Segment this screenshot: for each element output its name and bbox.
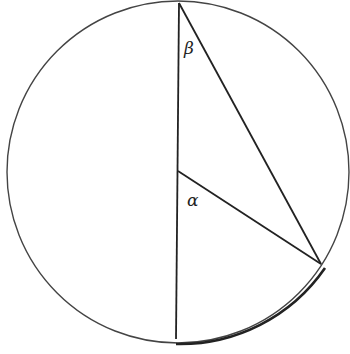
beta-label: β	[183, 38, 194, 58]
geometry-diagram: β α	[0, 0, 350, 354]
chord-line	[179, 3, 321, 264]
radius-line	[178, 171, 321, 264]
alpha-label: α	[187, 190, 199, 210]
highlighted-arc	[176, 268, 325, 344]
